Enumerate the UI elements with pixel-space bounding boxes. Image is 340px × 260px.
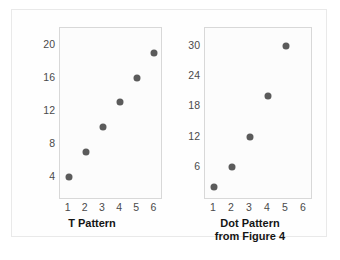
y-tick-label: 6 (174, 161, 200, 172)
chart-title-line: Dot Pattern (172, 217, 328, 230)
y-axis-ticks-dot-pattern: 612182430 (170, 27, 200, 199)
data-point (265, 93, 272, 100)
y-tick-label: 12 (174, 131, 200, 142)
x-tick-label: 2 (228, 202, 234, 213)
data-point (82, 149, 89, 156)
data-point (151, 49, 158, 56)
x-axis-ticks-t-pattern: 123456 (59, 202, 162, 216)
data-point (211, 184, 218, 191)
y-tick-label: 12 (29, 104, 55, 115)
y-tick-label: 20 (29, 38, 55, 49)
data-point (99, 124, 106, 131)
chart-title-line: from Figure 4 (172, 230, 328, 243)
y-axis-ticks-t-pattern: 48121620 (25, 27, 55, 199)
x-tick-label: 6 (300, 202, 306, 213)
y-tick-label: 16 (29, 71, 55, 82)
x-tick-label: 2 (82, 202, 88, 213)
y-tick-label: 18 (174, 100, 200, 111)
data-point (134, 74, 141, 81)
x-tick-label: 3 (246, 202, 252, 213)
figure-frame: 48121620 123456 T Pattern 612182430 1234… (11, 9, 327, 237)
data-point (283, 42, 290, 49)
chart-title-line: T Pattern (12, 217, 172, 230)
data-point (229, 164, 236, 171)
y-tick-label: 4 (29, 171, 55, 182)
x-tick-label: 6 (150, 202, 156, 213)
chart-panel-t-pattern: 48121620 123456 T Pattern (12, 10, 172, 238)
x-tick-label: 4 (116, 202, 122, 213)
plot-area-t-pattern (59, 27, 162, 199)
x-axis-ticks-dot-pattern: 123456 (204, 202, 312, 216)
y-tick-label: 8 (29, 138, 55, 149)
x-tick-label: 5 (282, 202, 288, 213)
x-tick-label: 1 (65, 202, 71, 213)
chart-panel-dot-pattern: 612182430 123456 Dot Patternfrom Figure … (172, 10, 328, 238)
x-tick-label: 3 (99, 202, 105, 213)
chart-title-t-pattern: T Pattern (12, 217, 172, 230)
data-point (247, 133, 254, 140)
chart-title-dot-pattern: Dot Patternfrom Figure 4 (172, 217, 328, 243)
data-point (117, 99, 124, 106)
y-tick-label: 24 (174, 70, 200, 81)
plot-area-dot-pattern (204, 27, 312, 199)
x-tick-label: 1 (210, 202, 216, 213)
data-point (65, 173, 72, 180)
x-tick-label: 4 (264, 202, 270, 213)
y-tick-label: 30 (174, 39, 200, 50)
x-tick-label: 5 (133, 202, 139, 213)
